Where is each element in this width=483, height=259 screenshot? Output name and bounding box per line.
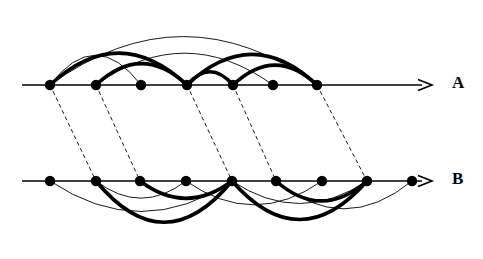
node-a-6[interactable]: [268, 80, 278, 90]
node-a-2[interactable]: [91, 80, 101, 90]
node-b-2[interactable]: [91, 176, 101, 186]
node-a-3[interactable]: [136, 80, 146, 90]
node-b-9[interactable]: [407, 176, 417, 186]
node-a-1[interactable]: [45, 80, 55, 90]
arc-b-thick-1: [96, 181, 232, 222]
node-b-5[interactable]: [227, 176, 237, 186]
node-b-6[interactable]: [271, 176, 281, 186]
arc-diagram-figure: A B: [0, 0, 483, 259]
axis-label-b: B: [452, 170, 463, 187]
node-b-3[interactable]: [135, 176, 145, 186]
arc-b-thick-3: [232, 181, 367, 220]
connector-dashed-line-4: [233, 85, 276, 181]
connector-dashed-line-1: [50, 85, 96, 181]
node-a-4[interactable]: [182, 80, 192, 90]
node-b-4[interactable]: [181, 176, 191, 186]
node-b-1[interactable]: [45, 176, 55, 186]
axis-label-a: A: [452, 74, 464, 91]
node-a-7[interactable]: [312, 80, 322, 90]
connector-dashed-line-2: [96, 85, 140, 181]
connector-dashed-line-3: [187, 85, 232, 181]
node-b-8[interactable]: [362, 176, 372, 186]
node-a-5[interactable]: [228, 80, 238, 90]
arc-diagram-canvas: [0, 0, 483, 259]
connector-dashed-line-5: [317, 85, 367, 181]
node-b-7[interactable]: [317, 176, 327, 186]
